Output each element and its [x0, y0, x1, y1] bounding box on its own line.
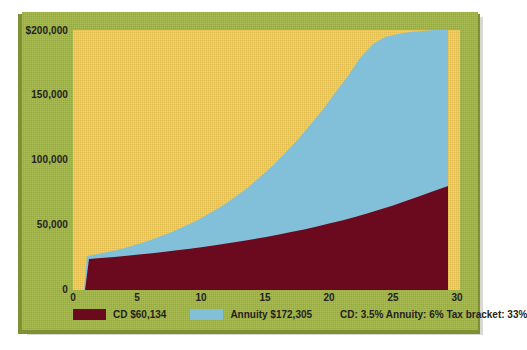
legend-item-annuity: Annuity $172,305	[230, 309, 312, 320]
x-tick-label: 25	[373, 293, 413, 303]
chart-legend: CD $60,134 Annuity $172,305 CD: 3.5% Ann…	[73, 306, 527, 322]
legend-item-cd: CD $60,134	[113, 309, 166, 320]
x-tick-label: 5	[117, 293, 157, 303]
cd-color-swatch	[73, 309, 106, 320]
y-tick-label: 100,000	[4, 155, 68, 165]
y-tick-label: 150,000	[4, 90, 68, 100]
x-tick-label: 10	[181, 293, 221, 303]
assumptions-note: CD: 3.5% Annuity: 6% Tax bracket: 33%	[340, 309, 527, 320]
x-tick-label: 0	[53, 293, 93, 303]
y-tick-label: $200,000	[4, 26, 68, 36]
annuity-color-swatch	[190, 309, 223, 320]
plot-area	[73, 30, 460, 290]
x-tick-label: 20	[309, 293, 349, 303]
stacked-area-svg	[73, 30, 460, 290]
x-tick-label: 30	[437, 293, 477, 303]
y-tick-label: 50,000	[4, 220, 68, 230]
x-tick-label: 15	[245, 293, 285, 303]
